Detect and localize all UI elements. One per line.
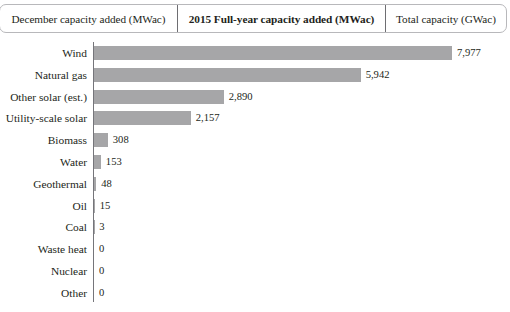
bar-value-label: 7,977 (457, 46, 481, 60)
tab-total-capacity[interactable]: Total capacity (GWac) (386, 5, 506, 32)
bar-value-label: 2,157 (196, 111, 220, 125)
category-label: Waste heat (0, 242, 87, 256)
bar (94, 199, 95, 213)
bar-value-label: 153 (106, 155, 122, 169)
metric-tab-bar[interactable]: December capacity added (MWac) 2015 Full… (0, 4, 507, 33)
category-label: Natural gas (0, 68, 87, 82)
bar-value-label: 308 (113, 133, 129, 147)
category-label: Geothermal (0, 177, 87, 191)
chart-row: Geothermal48 (0, 173, 510, 195)
category-label: Nuclear (0, 264, 87, 278)
chart-row: Wind7,977 (0, 42, 510, 64)
tab-label: 2015 Full-year capacity added (MWac) (189, 13, 375, 25)
bar (94, 68, 361, 82)
bar (94, 133, 108, 147)
bar-value-label: 0 (99, 264, 104, 278)
chart-row: Oil15 (0, 195, 510, 217)
tab-2015-full-year-capacity-added[interactable]: 2015 Full-year capacity added (MWac) (177, 5, 386, 32)
bar-value-label: 5,942 (366, 68, 390, 82)
category-label: Other solar (est.) (0, 90, 87, 104)
chart-row: Other solar (est.)2,890 (0, 86, 510, 108)
bar-value-label: 0 (99, 286, 104, 300)
category-label: Coal (0, 220, 87, 234)
chart-row: Natural gas5,942 (0, 64, 510, 86)
tab-label: December capacity added (MWac) (12, 13, 166, 25)
bar-value-label: 0 (99, 242, 104, 256)
tab-december-capacity-added[interactable]: December capacity added (MWac) (0, 5, 177, 32)
tab-label: Total capacity (GWac) (396, 13, 496, 25)
category-label: Other (0, 286, 87, 300)
category-label: Water (0, 155, 87, 169)
chart-row: Water153 (0, 151, 510, 173)
capacity-bar-chart: Wind7,977Natural gas5,942Other solar (es… (0, 38, 510, 312)
bar-value-label: 48 (101, 177, 112, 191)
chart-row: Waste heat0 (0, 238, 510, 260)
category-label: Wind (0, 46, 87, 60)
bar-value-label: 15 (100, 199, 111, 213)
chart-row: Nuclear0 (0, 260, 510, 282)
bar (94, 90, 224, 104)
category-label: Biomass (0, 133, 87, 147)
category-label: Oil (0, 199, 87, 213)
bar (94, 46, 452, 60)
category-label: Utility-scale solar (0, 111, 87, 125)
bar (94, 177, 96, 191)
bar (94, 111, 191, 125)
chart-row: Other0 (0, 282, 510, 304)
chart-row: Biomass308 (0, 129, 510, 151)
bar-value-label: 3 (99, 220, 104, 234)
bar (94, 155, 101, 169)
chart-row: Utility-scale solar2,157 (0, 107, 510, 129)
bar-value-label: 2,890 (229, 90, 253, 104)
chart-row: Coal3 (0, 216, 510, 238)
